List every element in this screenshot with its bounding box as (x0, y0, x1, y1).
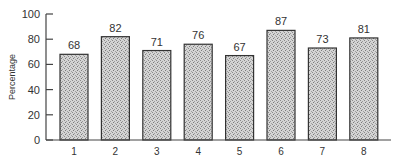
value-label-1: 68 (68, 39, 80, 51)
category-label-5: 5 (237, 146, 243, 157)
y-tick-label: 40 (28, 84, 40, 96)
category-label-4: 4 (195, 146, 201, 157)
bar-2 (101, 37, 129, 140)
y-axis-title: Percentage (7, 54, 17, 100)
category-label-3: 3 (154, 146, 160, 157)
y-axis-ticks: 020406080100 (22, 8, 53, 146)
category-labels: 12345678 (71, 146, 367, 157)
category-label-1: 1 (71, 146, 77, 157)
category-label-7: 7 (320, 146, 326, 157)
bar-8 (350, 38, 378, 140)
value-label-2: 82 (109, 22, 121, 34)
value-label-3: 71 (151, 36, 163, 48)
value-label-7: 73 (316, 33, 328, 45)
bar-6 (267, 30, 295, 140)
bar-3 (143, 51, 171, 140)
category-label-2: 2 (113, 146, 119, 157)
value-label-8: 81 (358, 23, 370, 35)
value-label-5: 67 (233, 41, 245, 53)
bars-group: 6882717667877381 (60, 15, 378, 140)
axes-group (46, 14, 391, 140)
y-tick-label: 80 (28, 33, 40, 45)
bar-5 (226, 56, 254, 140)
value-label-4: 76 (192, 29, 204, 41)
bar-1 (60, 54, 88, 140)
y-tick-label: 100 (22, 8, 40, 20)
y-tick-label: 60 (28, 58, 40, 70)
category-label-8: 8 (361, 146, 367, 157)
value-label-6: 87 (275, 15, 287, 27)
category-label-6: 6 (278, 146, 284, 157)
y-tick-label: 20 (28, 109, 40, 121)
bar-chart: Percentage 020406080100 6882717667877381… (0, 0, 403, 164)
bar-4 (184, 44, 212, 140)
bar-7 (308, 48, 336, 140)
y-tick-label: 0 (34, 134, 40, 146)
